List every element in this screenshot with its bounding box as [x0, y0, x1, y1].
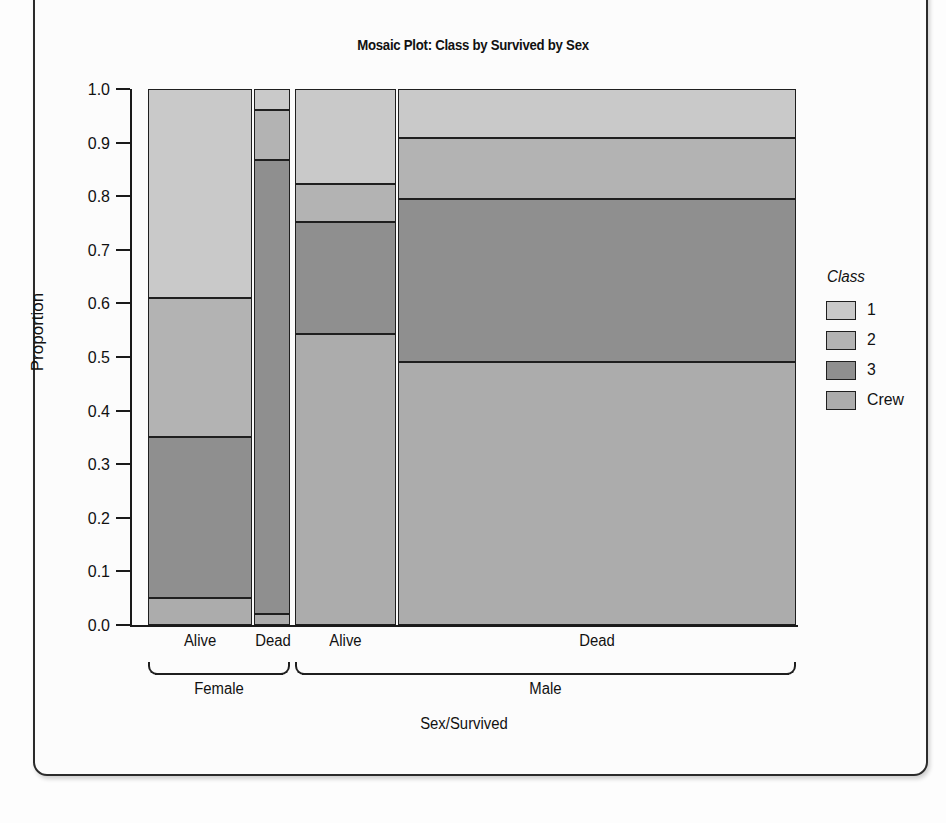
legend-swatch	[826, 361, 856, 380]
legend-item: 2	[826, 325, 907, 355]
y-axis-tick-label: 0.1	[40, 563, 110, 580]
mosaic-tile	[398, 138, 796, 199]
mosaic-tile	[254, 614, 290, 625]
y-axis-tick-mark	[116, 410, 130, 412]
brace-end-right	[787, 662, 796, 675]
y-axis-tick-mark	[116, 195, 130, 197]
x-axis-tick-label: Alive	[152, 632, 249, 650]
chart-title: Mosaic Plot: Class by Survived by Sex	[57, 36, 889, 53]
mosaic-tile	[148, 598, 252, 625]
mosaic-tile	[295, 89, 396, 184]
x-axis-group-label: Male	[313, 680, 779, 698]
mosaic-tile	[398, 199, 796, 362]
group-brace	[295, 662, 796, 676]
y-axis-tick-mark	[116, 463, 130, 465]
legend-label: 1	[867, 300, 876, 320]
mosaic-tile	[398, 89, 796, 138]
y-axis-line	[130, 89, 132, 626]
mosaic-tile	[148, 298, 252, 437]
x-axis-tick-label: Dead	[255, 632, 288, 650]
x-axis-label: Sex/Survived	[153, 715, 774, 733]
mosaic-tile	[148, 89, 252, 298]
y-axis-label: Proportion	[28, 252, 48, 412]
legend-swatch	[826, 301, 856, 320]
y-axis-tick-mark	[116, 88, 130, 90]
y-axis-tick-label: 0.9	[40, 134, 110, 151]
mosaic-column	[398, 89, 796, 625]
mosaic-tile	[398, 362, 796, 625]
brace-end-right	[281, 662, 290, 675]
brace-bar	[302, 673, 789, 675]
brace-bar	[155, 673, 283, 675]
y-axis-tick-label: 0.8	[40, 188, 110, 205]
legend-item: 1	[826, 295, 907, 325]
mosaic-tile	[148, 437, 252, 598]
y-axis-tick-mark	[116, 356, 130, 358]
legend-label: 3	[867, 360, 876, 380]
mosaic-column	[295, 89, 396, 625]
y-axis-tick-mark	[116, 302, 130, 304]
legend-item: Crew	[826, 385, 907, 415]
mosaic-column	[254, 89, 290, 625]
legend-title: Class	[826, 268, 903, 286]
mosaic-tile	[295, 222, 396, 335]
x-axis-tick-label: Dead	[412, 632, 782, 650]
y-axis-tick-label: 0.0	[40, 617, 110, 634]
group-brace	[148, 662, 290, 676]
y-axis-tick-mark	[116, 249, 130, 251]
mosaic-tile	[295, 184, 396, 222]
y-axis-tick-label: 0.5	[40, 349, 110, 366]
y-axis-tick-label: 0.4	[40, 402, 110, 419]
y-axis-tick-label: 0.3	[40, 456, 110, 473]
mosaic-tile	[254, 89, 290, 110]
y-axis-tick-mark	[116, 142, 130, 144]
y-axis-tick-mark	[116, 517, 130, 519]
y-axis-tick-mark	[116, 624, 130, 626]
legend: Class 123Crew	[826, 268, 907, 415]
mosaic-tile	[254, 160, 290, 614]
x-axis-group-label: Female	[153, 680, 285, 698]
mosaic-plot-area	[148, 89, 796, 625]
legend-swatch	[826, 331, 856, 350]
legend-label: Crew	[867, 390, 904, 410]
y-axis-tick-label: 0.7	[40, 241, 110, 258]
x-axis-tick-label: Alive	[299, 632, 393, 650]
legend-items: 123Crew	[826, 295, 907, 415]
y-axis-tick-label: 0.2	[40, 509, 110, 526]
legend-swatch	[826, 391, 856, 410]
y-axis-tick-label: 0.6	[40, 295, 110, 312]
y-axis-tick-label: 1.0	[40, 81, 110, 98]
x-axis-line	[130, 625, 798, 627]
legend-label: 2	[867, 330, 876, 350]
mosaic-column	[148, 89, 252, 625]
mosaic-tile	[254, 110, 290, 160]
legend-item: 3	[826, 355, 907, 385]
mosaic-tile	[295, 334, 396, 625]
y-axis-tick-mark	[116, 570, 130, 572]
